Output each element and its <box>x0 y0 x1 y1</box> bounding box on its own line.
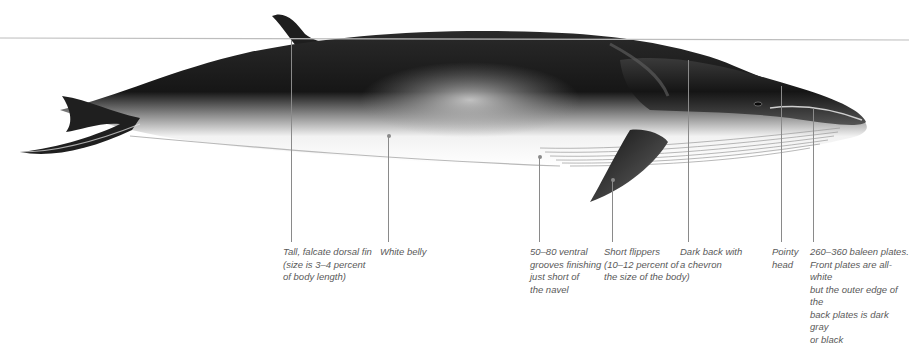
caption-dark-back: Dark back with a chevron <box>680 246 742 271</box>
caption-baleen-plates: 260–360 baleen plates. Front plates are … <box>810 246 909 346</box>
leader-line-dark-back <box>688 60 689 242</box>
leader-line-baleen-plates <box>813 108 814 242</box>
leader-line-pointy-head <box>781 86 782 242</box>
caption-dorsal-fin: Tall, falcate dorsal fin (size is 3–4 pe… <box>283 246 372 284</box>
leader-line-dorsal-fin <box>291 40 292 242</box>
caption-ventral-grooves: 50–80 ventral grooves finishing just sho… <box>530 246 601 296</box>
caption-pointy-head: Pointy head <box>772 246 798 271</box>
leader-line-short-flippers <box>612 180 613 242</box>
caption-white-belly: White belly <box>380 246 426 259</box>
leader-line-white-belly <box>388 136 389 242</box>
caption-short-flippers: Short flippers (10–12 percent of the siz… <box>604 246 690 284</box>
horizon-line <box>0 36 909 42</box>
leader-line-ventral-grooves <box>539 157 540 242</box>
